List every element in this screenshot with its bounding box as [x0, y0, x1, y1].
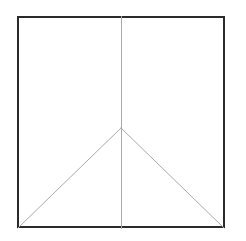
figure-container	[0, 0, 246, 241]
geometric-figure-svg	[0, 0, 246, 241]
